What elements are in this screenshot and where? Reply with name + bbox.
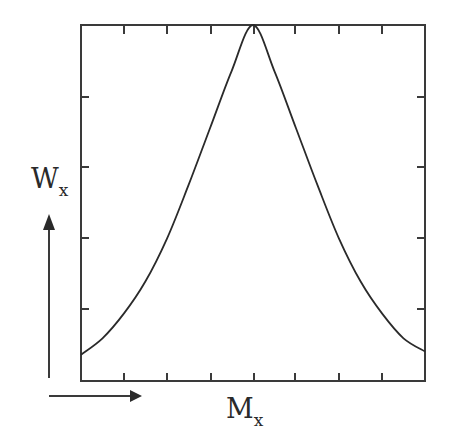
y-axis-arrow-icon [43, 214, 55, 378]
y-axis-label: Wx [31, 163, 69, 200]
x-axis-ticks-bottom [124, 373, 382, 381]
chart: Wx Mx [0, 0, 449, 444]
x-axis-label: Mx [226, 393, 264, 430]
bell-curve-line [81, 25, 425, 355]
plot-frame [81, 25, 425, 381]
x-axis-arrow-icon [49, 390, 142, 402]
y-axis-ticks-left [81, 97, 89, 309]
y-axis-ticks-right [417, 97, 425, 309]
x-axis-ticks-top [124, 25, 382, 34]
